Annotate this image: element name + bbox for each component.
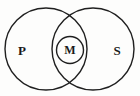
venn-diagram-figure: P M S: [0, 0, 140, 96]
venn-diagram-canvas: P M S: [0, 0, 140, 96]
label-s: S: [113, 43, 120, 58]
label-m: M: [64, 43, 75, 57]
label-p: P: [18, 43, 26, 58]
